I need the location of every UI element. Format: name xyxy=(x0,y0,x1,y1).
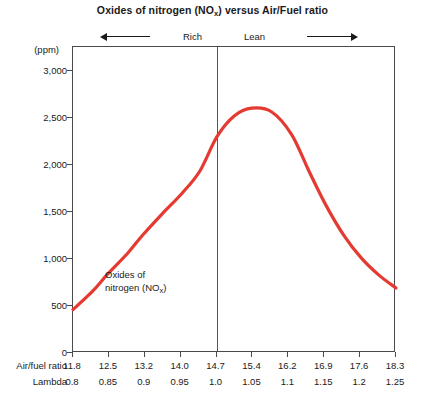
x-tick-label-lambda: 0.9 xyxy=(137,376,150,387)
x-axis-row-lambda: Lambda 0.80.850.90.951.01.051.11.151.21.… xyxy=(0,376,425,390)
x-tick-label-air-fuel: 13.2 xyxy=(135,360,154,371)
x-tick-label-air-fuel: 16.9 xyxy=(314,360,333,371)
x-tick-label-lambda: 1.05 xyxy=(242,376,261,387)
x-tick-mark xyxy=(395,352,396,357)
chart-title: Oxides of nitrogen (NOx) versus Air/Fuel… xyxy=(0,4,425,16)
x-tick-label-lambda: 1.0 xyxy=(209,376,222,387)
chart-title-tail: ) versus Air/Fuel ratio xyxy=(218,4,328,16)
mixture-lean-label: Lean xyxy=(244,32,265,42)
series-annotation-line2: nitrogen (NOx) xyxy=(105,281,166,295)
x-axis-row-lambda-title: Lambda xyxy=(33,376,67,387)
lean-arrow-line xyxy=(307,36,351,37)
series-annotation-label: Oxides of nitrogen (NOx) xyxy=(105,268,166,295)
x-tick-mark xyxy=(216,352,217,357)
x-tick-label-lambda: 0.8 xyxy=(65,376,78,387)
x-tick-label-air-fuel: 16.2 xyxy=(278,360,297,371)
y-tick-label: 500 xyxy=(51,299,67,310)
series-annotation-line2-tail: ) xyxy=(163,282,166,293)
chart-title-main: Oxides of nitrogen (NO xyxy=(97,4,214,16)
mixture-band: Rich Lean xyxy=(72,28,395,45)
x-tick-mark xyxy=(108,352,109,357)
x-tick-label-air-fuel: 17.6 xyxy=(350,360,369,371)
x-tick-label-air-fuel: 15.4 xyxy=(242,360,261,371)
series-annotation-line2-main: nitrogen (NO xyxy=(105,282,159,293)
x-tick-label-air-fuel: 11.8 xyxy=(63,360,81,371)
nox-curve-svg xyxy=(73,47,396,353)
x-tick-mark xyxy=(144,352,145,357)
mixture-lean-region: Lean xyxy=(216,28,395,45)
y-tick-label: 2,500 xyxy=(43,111,67,122)
x-tick-mark xyxy=(323,352,324,357)
x-tick-label-lambda: 1.15 xyxy=(314,376,333,387)
x-tick-mark xyxy=(180,352,181,357)
x-tick-mark xyxy=(72,352,73,357)
y-tick-label: 2,000 xyxy=(43,158,67,169)
x-tick-label-air-fuel: 12.5 xyxy=(99,360,118,371)
y-tick-label: 1,500 xyxy=(43,205,67,216)
x-tick-label-air-fuel: 18.3 xyxy=(386,360,405,371)
x-tick-label-lambda: 1.1 xyxy=(281,376,294,387)
x-tick-mark xyxy=(251,352,252,357)
x-tick-mark xyxy=(359,352,360,357)
mixture-rich-region: Rich xyxy=(72,28,216,45)
y-tick-label: 1,000 xyxy=(43,252,67,263)
x-tick-label-lambda: 1.25 xyxy=(386,376,405,387)
chart-title-subscript: x xyxy=(214,9,218,18)
y-axis-unit-label: (ppm) xyxy=(34,44,59,55)
x-tick-label-lambda: 1.2 xyxy=(353,376,366,387)
plot-area: Oxides of nitrogen (NOx) xyxy=(72,46,395,352)
x-tick-label-lambda: 0.95 xyxy=(170,376,189,387)
chart-figure: Oxides of nitrogen (NOx) versus Air/Fuel… xyxy=(0,0,425,395)
x-axis-row-air-fuel-title: Air/fuel ratio xyxy=(16,360,67,371)
series-annotation-subscript: x xyxy=(159,286,163,295)
x-tick-label-lambda: 0.85 xyxy=(99,376,118,387)
mixture-rich-label: Rich xyxy=(183,32,202,42)
lean-arrow-head-icon xyxy=(351,33,358,41)
x-tick-label-air-fuel: 14.7 xyxy=(206,360,225,371)
x-axis-row-air-fuel: Air/fuel ratio 11.812.513.214.014.715.41… xyxy=(0,360,425,374)
x-tick-mark xyxy=(287,352,288,357)
x-tick-label-air-fuel: 14.0 xyxy=(170,360,189,371)
y-tick-label: 3,000 xyxy=(43,64,67,75)
series-annotation-line1: Oxides of xyxy=(105,268,166,281)
